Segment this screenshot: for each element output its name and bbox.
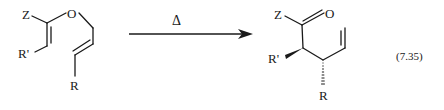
reactant-z-label: Z (22, 7, 30, 22)
equation-number: (7.35) (396, 50, 423, 63)
product-z-label: Z (274, 7, 282, 22)
bond-calpha-cbeta (303, 48, 323, 60)
hash-bond-r (321, 63, 325, 84)
product-o-label: O (325, 6, 334, 21)
reaction-scheme: Z O R' R Δ (0, 0, 444, 110)
product-rprime-label: R' (268, 51, 279, 66)
bond-z-c1 (32, 16, 47, 23)
reaction-arrow: Δ (129, 13, 253, 39)
bond-alkene-double (73, 40, 90, 51)
heat-symbol: Δ (172, 13, 181, 28)
product-r-label: R (319, 88, 328, 103)
bond-c2-rprime (35, 46, 47, 52)
product-structure: Z O R' R (268, 6, 345, 103)
bond-cbeta-vinyl (323, 48, 345, 60)
bond-c1-o (47, 13, 66, 23)
bond-o-ch2 (79, 13, 93, 28)
reactant-structure: Z O R' R (18, 6, 93, 93)
reactant-o-label: O (67, 6, 76, 21)
wedge-bond-rprime (285, 48, 303, 59)
bond-alkene (75, 44, 93, 55)
bond-z-carbonyl (285, 16, 302, 25)
bond-carbonyl-calpha (302, 25, 303, 48)
reactant-r-label: R (70, 78, 79, 93)
reactant-rprime-label: R' (18, 46, 29, 61)
